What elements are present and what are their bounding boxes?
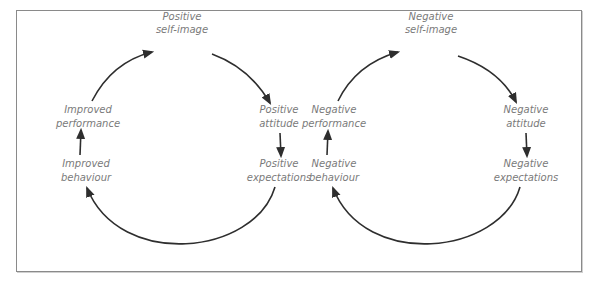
arrow-expectations-to-behaviour [87, 187, 275, 244]
node-label-line2: attitude [506, 118, 546, 129]
node-label-line1: Positive [260, 158, 299, 169]
arrow-performance-to-self-image [92, 52, 152, 101]
node-label-line2: behaviour [61, 172, 112, 183]
negative-cycle: Negative self-image Negative attitude Ne… [301, 11, 558, 244]
node-label-line2: self-image [156, 24, 208, 35]
arrow-behaviour-to-performance [327, 131, 328, 155]
node-positive-attitude: Positive attitude [259, 104, 299, 129]
node-negative-behaviour: Negative behaviour [309, 158, 360, 183]
node-label-line1: Improved [62, 158, 110, 169]
arrow-expectations-to-behaviour [333, 187, 520, 244]
node-label-line1: Negative [312, 158, 357, 169]
node-label-line1: Improved [64, 104, 112, 115]
node-label-line2: performance [301, 118, 366, 129]
node-label-line2: self-image [405, 24, 457, 35]
arrow-attitude-to-expectations [280, 133, 281, 156]
node-negative-attitude: Negative attitude [504, 104, 549, 129]
node-label-line2: attitude [259, 118, 299, 129]
node-label-line1: Negative [504, 104, 549, 115]
arrow-self-image-to-attitude [458, 56, 516, 102]
node-label-line1: Negative [409, 11, 454, 22]
node-positive-expectations: Positive expectations [247, 158, 311, 183]
node-label-line2: performance [55, 118, 120, 129]
arrow-self-image-to-attitude [212, 54, 270, 103]
node-label-line1: Positive [260, 104, 299, 115]
arrow-behaviour-to-performance [80, 130, 81, 155]
node-positive-self-image: Positive self-image [156, 11, 208, 35]
arrow-performance-to-self-image [338, 52, 398, 101]
arrow-attitude-to-expectations [526, 133, 527, 156]
node-improved-behaviour: Improved behaviour [61, 158, 112, 183]
node-label-line2: behaviour [309, 172, 360, 183]
node-label-line2: expectations [247, 172, 311, 183]
node-label-line1: Positive [163, 11, 202, 22]
node-label-line1: Negative [504, 158, 549, 169]
node-improved-performance: Improved performance [55, 104, 120, 129]
node-label-line1: Negative [312, 104, 357, 115]
node-negative-performance: Negative performance [301, 104, 366, 129]
positive-cycle: Positive self-image Positive attitude Po… [55, 11, 311, 244]
node-negative-self-image: Negative self-image [405, 11, 457, 35]
node-label-line2: expectations [494, 172, 558, 183]
node-negative-expectations: Negative expectations [494, 158, 558, 183]
cycle-diagrams: Positive self-image Positive attitude Po… [0, 0, 599, 284]
